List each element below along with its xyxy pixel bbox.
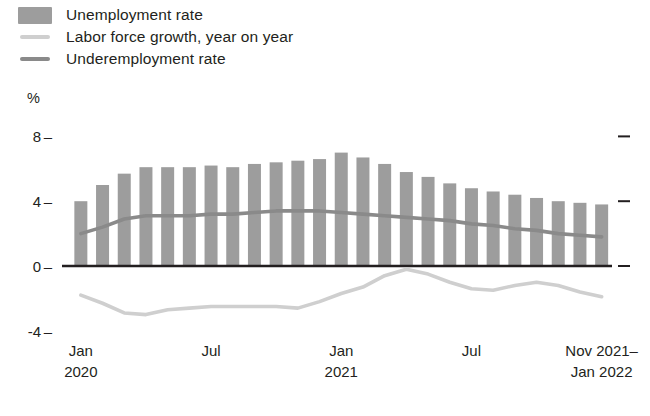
x-axis-tick-label: Jul bbox=[462, 340, 481, 361]
x-axis-tick-label: Jan2021 bbox=[325, 340, 358, 382]
bar bbox=[335, 153, 348, 266]
bar-series-unemployment-rate bbox=[74, 153, 608, 266]
bar bbox=[226, 167, 239, 266]
right-axis-ticks bbox=[618, 136, 630, 266]
bar bbox=[487, 191, 500, 266]
x-axis-tick-label: Jul bbox=[201, 340, 220, 361]
bar bbox=[291, 161, 304, 266]
bar bbox=[248, 164, 261, 266]
x-axis-tick-label: Nov 2021–Jan 2022 bbox=[565, 340, 638, 382]
bar bbox=[422, 177, 435, 266]
bar bbox=[356, 157, 369, 266]
bar bbox=[465, 188, 478, 266]
bar bbox=[270, 162, 283, 266]
bar bbox=[443, 183, 456, 266]
y-axis-tick-label: 4– bbox=[18, 193, 52, 210]
y-axis-tick-label: 0– bbox=[18, 258, 52, 275]
y-axis-tick-label: -4– bbox=[18, 322, 52, 339]
y-axis-tick-label: 8– bbox=[18, 128, 52, 145]
chart-figure: Unemployment rate Labor force growth, ye… bbox=[0, 0, 650, 416]
x-axis-tick-label: Jan2020 bbox=[64, 340, 97, 382]
plot-area: 8–4–0–-4– Jan2020JulJan2021JulNov 2021–J… bbox=[0, 0, 650, 416]
line-series-labor-force-growth bbox=[81, 269, 602, 314]
